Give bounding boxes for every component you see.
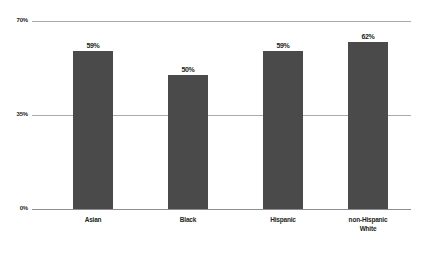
y-axis-labels: 70% 35% 0% <box>0 0 32 257</box>
x-label-asian-line1: Asian <box>85 216 102 223</box>
bar-value-label-asian: 59% <box>61 42 125 49</box>
x-label-hispanic: Hispanic <box>238 215 328 224</box>
x-label-non-hispanic-white-line1: non-Hispanic <box>349 216 388 223</box>
bar-value-label-hispanic: 59% <box>251 42 315 49</box>
x-label-non-hispanic-white: non-Hispanic White <box>323 215 413 233</box>
bar-non-hispanic-white[interactable] <box>348 42 388 209</box>
y-tick-label-70: 70% <box>0 17 28 23</box>
x-label-non-hispanic-white-line2: White <box>323 224 413 233</box>
x-axis-labels: Asian Black Hispanic non-Hispanic White <box>32 215 411 255</box>
y-tick-label-0: 0% <box>0 205 28 211</box>
bar-value-label-black: 50% <box>156 66 220 73</box>
bar-hispanic[interactable] <box>263 51 303 209</box>
x-label-asian: Asian <box>48 215 138 224</box>
x-label-black: Black <box>143 215 233 224</box>
plot-area: 59% 50% 59% 62% <box>32 21 411 209</box>
x-label-hispanic-line1: Hispanic <box>270 216 296 223</box>
x-label-black-line1: Black <box>180 216 196 223</box>
bar-series: 59% 50% 59% 62% <box>32 21 411 209</box>
y-tick-label-35: 35% <box>0 111 28 117</box>
bar-asian[interactable] <box>73 51 113 209</box>
bar-chart: 70% 35% 0% 59% 50% 59% 62% <box>0 0 432 257</box>
bar-black[interactable] <box>168 75 208 209</box>
axis-baseline-0 <box>32 209 411 210</box>
bar-value-label-non-hispanic-white: 62% <box>336 33 400 40</box>
